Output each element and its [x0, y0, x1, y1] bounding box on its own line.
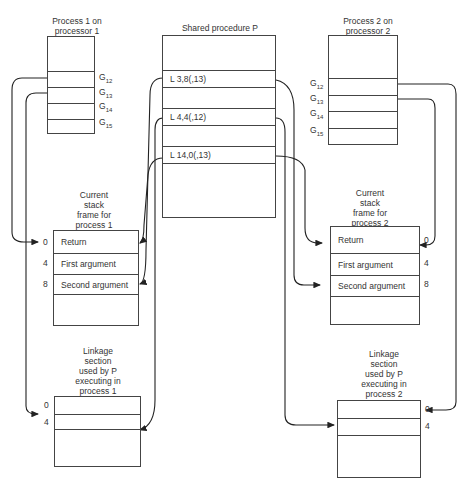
linkage2-row-rest: [338, 435, 420, 479]
linkage2-title: Linkage section used by P executing in p…: [354, 349, 414, 399]
linkage1-offset-0: 0: [44, 400, 49, 410]
shared-spacer-2: [163, 125, 275, 146]
shared-spacer-1: [163, 87, 275, 108]
process1-memory: [47, 36, 95, 134]
arrow-l3-to-stack1-second-arg: [140, 78, 163, 284]
process1-label-g15: G15: [99, 117, 112, 129]
arrow-l14-to-stack2-return: [276, 156, 322, 243]
linkage2-row-4: [338, 418, 420, 435]
process2-label-g12: G12: [310, 78, 323, 90]
linkage1-row-4: [55, 414, 140, 429]
process2-label-g13: G13: [310, 93, 323, 105]
arrow-p1-g13-to-linkage1: [26, 93, 55, 414]
process2-slot-g12: [329, 78, 397, 95]
linkage1-row-0: [55, 397, 140, 414]
stack1-row-second-argument: Second argument: [54, 274, 138, 294]
stack1-row-empty: [54, 294, 138, 327]
linkage2-offset-0: 0: [425, 404, 430, 414]
process1-label-g12: G12: [99, 72, 112, 84]
process2-memory: [328, 35, 398, 145]
stack2-row-first-argument: First argument: [331, 253, 419, 275]
stack1-offset-0: 0: [43, 237, 48, 247]
process2-label-g15: G15: [310, 125, 323, 137]
shared-spacer-3: [163, 163, 275, 219]
shared-instruction-2: L 4,4(,12): [163, 108, 275, 125]
linkage2-row-0: [338, 401, 420, 418]
stack2-frame: Return First argument Second argument: [330, 226, 420, 325]
process2-title: Process 2 on processor 2: [333, 16, 403, 36]
linkage1-row-rest: [55, 429, 140, 468]
process1-slot-g13: [48, 87, 94, 103]
stack1-offset-4: 4: [43, 258, 48, 268]
stack2-title: Current stack frame for process 2: [340, 188, 400, 228]
process2-slot-g15: [329, 128, 397, 146]
linkage2-offset-4: 4: [425, 421, 430, 431]
shared-instruction-3: L 14,0(,13): [163, 146, 275, 163]
stack2-row-empty: [331, 296, 419, 326]
stack2-row-return: Return: [331, 227, 419, 253]
stack2-offset-4: 4: [424, 258, 429, 268]
linkage1-offset-4: 4: [44, 417, 49, 427]
process1-label-g14: G14: [99, 101, 112, 113]
linkage1-box: [54, 396, 141, 467]
stack2-offset-8: 8: [424, 279, 429, 289]
linkage2-box: [337, 400, 421, 478]
linkage1-title: Linkage section used by P executing in p…: [68, 346, 128, 396]
stack2-row-second-argument: Second argument: [331, 275, 419, 296]
process1-title: Process 1 on processor 1: [42, 16, 112, 36]
process2-slot-g13: [329, 95, 397, 111]
shared-procedure-title: Shared procedure P: [165, 23, 275, 33]
process2-slot-g14: [329, 111, 397, 128]
stack1-title: Current stack frame for process 1: [64, 190, 124, 230]
arrow-l4-to-linkage2: [276, 118, 334, 425]
stack2-offset-0: 0: [424, 235, 429, 245]
process1-slot-g12: [48, 71, 94, 87]
process1-label-g13: G13: [99, 87, 112, 99]
shared-instruction-1: L 3,8(,13): [163, 70, 275, 87]
arrow-l4-to-linkage1: [140, 118, 163, 430]
stack1-offset-8: 8: [43, 279, 48, 289]
process2-label-g14: G14: [310, 108, 323, 120]
process1-slot-g14: [48, 103, 94, 119]
stack1-row-first-argument: First argument: [54, 253, 138, 274]
stack1-frame: Return First argument Second argument: [53, 230, 139, 326]
arrow-l14-to-stack1-return: [140, 158, 163, 243]
process1-slot-g15: [48, 119, 94, 135]
stack1-row-return: Return: [54, 231, 138, 253]
shared-procedure-box: L 3,8(,13) L 4,4(,12) L 14,0(,13): [162, 35, 276, 218]
